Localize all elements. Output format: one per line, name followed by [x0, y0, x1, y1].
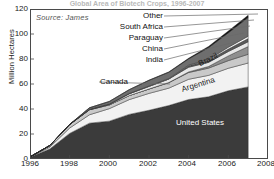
x-axis: 1996 1998 2000 2002 2004 2006 2008 — [0, 160, 274, 174]
y-tick-80: 80 — [2, 55, 28, 63]
inline-label-united-states: United States — [176, 118, 224, 127]
callout-label-china: China — [103, 45, 163, 54]
callout-label-india: India — [108, 56, 163, 65]
leader-line-other — [164, 14, 258, 16]
callout-label-south-africa: South Africa — [73, 23, 163, 32]
x-tick-2006: 2006 — [210, 160, 244, 168]
x-tick-1996: 1996 — [13, 160, 47, 168]
y-axis: 120 100 80 60 40 20 0 — [0, 0, 28, 179]
callout-label-paraguay: Paraguay — [83, 34, 163, 43]
x-tick-2002: 2002 — [131, 160, 165, 168]
y-tick-20: 20 — [2, 130, 28, 138]
plot-area — [30, 9, 268, 159]
chart-figure: Global Area of Biotech Crops, 1996-2007 … — [0, 0, 274, 179]
x-tick-2000: 2000 — [91, 160, 125, 168]
stacked-area-plot — [30, 9, 268, 159]
y-tick-40: 40 — [2, 105, 28, 113]
callout-label-canada: Canada — [68, 78, 128, 87]
x-tick-2004: 2004 — [170, 160, 204, 168]
chart-title: Global Area of Biotech Crops, 1996-2007 — [0, 0, 274, 7]
callout-label-other: Other — [103, 12, 163, 21]
y-tick-100: 100 — [2, 30, 28, 38]
x-tick-2008: 2008 — [249, 160, 274, 168]
x-tick-1998: 1998 — [52, 160, 86, 168]
source-note: Source: James — [36, 13, 89, 22]
y-tick-60: 60 — [2, 80, 28, 88]
y-tick-120: 120 — [2, 5, 28, 13]
